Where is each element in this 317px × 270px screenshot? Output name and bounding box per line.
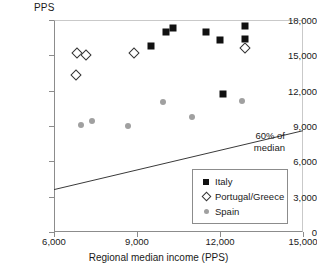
y-axis-tick-mark: [49, 20, 54, 21]
data-point-spain: [78, 122, 84, 128]
x-axis-tick-label: 6,000: [42, 236, 66, 247]
x-axis-tick-label: 15,000: [288, 236, 317, 247]
y-axis-tick-mark: [49, 161, 54, 162]
y-axis-tick-label: 15,000: [269, 50, 317, 61]
data-point-italy: [203, 28, 210, 35]
filled-circle-icon: [200, 209, 212, 214]
data-point-spain: [239, 98, 245, 104]
x-axis-tick-mark: [54, 232, 55, 237]
data-point-spain: [89, 118, 95, 124]
reference-line-annotation-line1: 60% of: [190, 130, 285, 142]
legend-label-spain: Spain: [212, 206, 239, 217]
y-axis-tick-mark: [49, 197, 54, 198]
data-point-italy: [241, 22, 248, 29]
legend-item-italy[interactable]: Italy: [193, 174, 287, 189]
x-axis-tick-mark: [220, 232, 221, 237]
y-axis-tick-label: 18,000: [269, 15, 317, 26]
x-axis-tick-label: 12,000: [205, 236, 234, 247]
data-point-spain: [189, 114, 195, 120]
x-axis-tick-label: 9,000: [125, 236, 149, 247]
data-point-italy: [219, 91, 226, 98]
data-point-italy: [147, 42, 154, 49]
data-point-italy: [217, 37, 224, 44]
data-point-spain: [160, 99, 166, 105]
legend-label-italy: Italy: [212, 176, 232, 187]
x-axis-tick-mark: [137, 232, 138, 237]
x-axis-tick-mark: [303, 232, 304, 237]
y-axis-tick-mark: [49, 126, 54, 127]
y-axis-tick-label: 12,000: [269, 85, 317, 96]
reference-line-annotation: 60% of median: [190, 130, 285, 154]
x-axis-title: Regional median income (PPS): [0, 252, 317, 263]
scatter-chart: PPS 03,0006,0009,00012,00015,00018,000 6…: [0, 0, 317, 270]
y-axis-tick-mark: [49, 91, 54, 92]
chart-legend: Italy Portugal/Greece Spain: [192, 169, 288, 224]
filled-square-icon: [200, 179, 212, 185]
legend-label-portugal-greece: Portugal/Greece: [212, 191, 284, 202]
y-axis-tick-label: 6,000: [269, 156, 317, 167]
data-point-italy: [169, 25, 176, 32]
reference-line-annotation-line2: median: [190, 142, 285, 154]
legend-item-portugal-greece[interactable]: Portugal/Greece: [193, 189, 287, 204]
y-axis-tick-mark: [49, 55, 54, 56]
y-axis-title: PPS: [34, 2, 55, 13]
data-point-spain: [125, 123, 131, 129]
legend-item-spain[interactable]: Spain: [193, 204, 287, 219]
open-diamond-icon: [200, 193, 212, 200]
